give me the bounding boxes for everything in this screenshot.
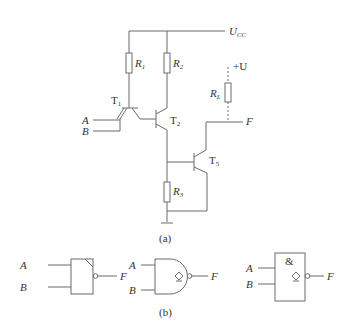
svg-text:R1: R1 — [134, 57, 145, 71]
svg-text:F: F — [119, 270, 127, 282]
svg-text:A: A — [245, 262, 253, 274]
resistor-r3: R3 — [164, 162, 207, 222]
caption-b: (b) — [159, 306, 172, 319]
svg-text:B: B — [129, 284, 136, 296]
svg-text:R2: R2 — [172, 57, 184, 71]
transistor-t2: T2 — [152, 108, 181, 162]
resistor-r1: R1 — [126, 31, 145, 108]
oc-gate-diagram: UCC R1 R2 T1 A B T2 — [0, 0, 351, 333]
resistor-rl: +U RL F — [209, 60, 253, 127]
svg-text:+U: +U — [233, 60, 247, 72]
gate-block-corner: A B F — [19, 259, 127, 294]
caption-a: (a) — [159, 232, 172, 245]
svg-text:&: & — [285, 255, 294, 267]
inputs: A B — [81, 114, 120, 137]
svg-text:B: B — [246, 278, 253, 290]
gate-nand-shape: A B F — [128, 259, 218, 296]
transistor-t1: T1 — [111, 94, 152, 119]
transistor-t5: T5 — [167, 122, 243, 211]
svg-text:RL: RL — [209, 87, 221, 101]
svg-text:T5: T5 — [209, 154, 220, 168]
svg-text:UCC: UCC — [229, 25, 247, 39]
svg-text:B: B — [20, 281, 27, 293]
svg-text:F: F — [326, 270, 334, 282]
svg-text:T1: T1 — [111, 94, 122, 108]
svg-text:T2: T2 — [170, 114, 181, 128]
ucc-rail: UCC — [129, 25, 247, 39]
svg-text:B: B — [82, 125, 89, 137]
resistor-r2: R2 — [164, 31, 184, 108]
gate-iec-and: & A B F — [245, 253, 334, 301]
svg-text:A: A — [128, 259, 136, 271]
svg-text:F: F — [210, 270, 218, 282]
circuit-svg: UCC R1 R2 T1 A B T2 — [0, 0, 351, 333]
svg-text:A: A — [19, 259, 27, 271]
svg-text:F: F — [245, 115, 253, 127]
svg-text:R3: R3 — [172, 185, 184, 199]
